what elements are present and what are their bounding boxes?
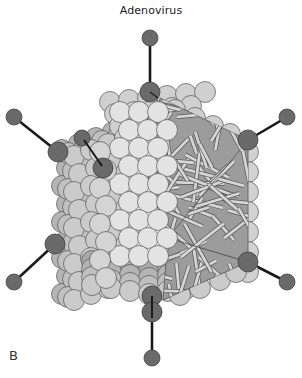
fiber-knob bbox=[144, 350, 160, 366]
fiber-knob bbox=[6, 109, 22, 125]
capsomere bbox=[96, 268, 117, 289]
penton-base bbox=[45, 234, 65, 254]
penton-base bbox=[238, 130, 258, 150]
adenovirus-diagram bbox=[0, 0, 302, 378]
panel-label: B bbox=[9, 348, 18, 363]
fiber-knob bbox=[6, 274, 22, 290]
fiber-knob bbox=[142, 30, 158, 46]
fiber-knob bbox=[279, 109, 295, 125]
penton-base bbox=[93, 158, 113, 178]
penton-base bbox=[238, 252, 258, 272]
capsomere bbox=[129, 246, 150, 267]
capsomere bbox=[148, 246, 169, 267]
capsomere bbox=[120, 281, 141, 302]
fiber-knob bbox=[279, 274, 295, 290]
penton-base bbox=[48, 142, 68, 162]
